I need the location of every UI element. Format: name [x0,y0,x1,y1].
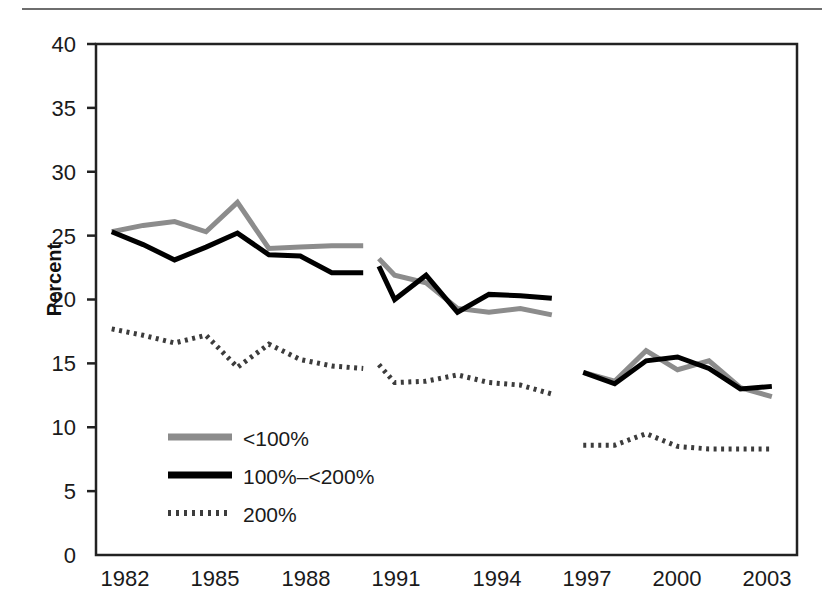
series-line-1-segment-2 [583,357,772,389]
series-line-1-segment-1 [379,266,552,312]
chart-figure: Percent 40 35 30 25 20 15 10 5 0 1982 19… [0,0,830,612]
series-line-2-segment-2 [583,434,772,449]
series-lines [112,202,772,449]
y-tick-marks [87,44,96,491]
series-line-2-segment-0 [112,329,363,369]
series-line-1-segment-0 [112,232,363,273]
series-line-0-segment-0 [112,202,363,248]
plot-area [0,0,830,612]
series-line-2-segment-1 [379,365,552,394]
